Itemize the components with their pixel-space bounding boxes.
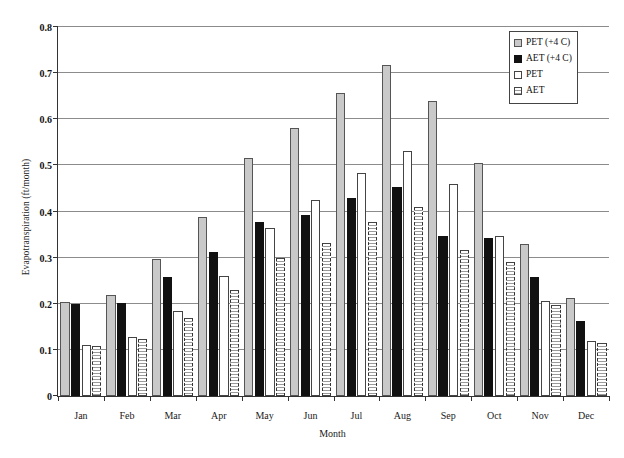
bar-jan-series2: [82, 345, 91, 396]
y-tick-label: 0.1: [40, 344, 53, 355]
bar-aug-series1: [392, 187, 401, 396]
bar-jun-series2: [311, 200, 320, 396]
x-tick-mark: [288, 396, 289, 401]
gridline: [58, 164, 609, 165]
bar-apr-series0: [198, 217, 207, 396]
bar-dec-series2: [587, 341, 596, 396]
x-label-may: May: [255, 410, 273, 421]
legend-swatch-icon: [514, 55, 522, 63]
bar-may-series0: [244, 158, 253, 396]
x-label-mar: Mar: [164, 410, 181, 421]
bar-feb-series1: [117, 303, 126, 396]
x-tick-mark: [471, 396, 472, 401]
bar-nov-series1: [530, 277, 539, 396]
gridline: [58, 211, 609, 212]
legend-item-pet[interactable]: PET: [514, 67, 572, 83]
bar-mar-series3: [184, 318, 193, 396]
bar-feb-series3: [138, 339, 147, 396]
x-label-sep: Sep: [441, 410, 456, 421]
y-tick-label: 0.3: [40, 252, 53, 263]
bar-aug-series3: [414, 207, 423, 396]
y-axis-title: Evapotranspiration (ft/month): [21, 112, 31, 322]
bar-sep-series1: [438, 236, 447, 397]
x-label-oct: Oct: [487, 410, 501, 421]
bar-jul-series2: [357, 173, 366, 396]
x-tick-mark: [379, 396, 380, 401]
bar-may-series1: [255, 222, 264, 396]
bar-nov-series3: [551, 305, 560, 396]
x-label-apr: Apr: [211, 410, 227, 421]
y-tick-mark: [53, 72, 58, 73]
y-tick-mark: [53, 257, 58, 258]
bar-aug-series0: [382, 65, 391, 396]
y-tick-label: 0: [47, 391, 52, 402]
x-tick-mark: [150, 396, 151, 401]
bar-nov-series2: [541, 301, 550, 396]
y-tick-label: 0.2: [40, 298, 53, 309]
bar-jan-series3: [92, 346, 101, 396]
y-tick-label: 0.7: [40, 68, 53, 79]
y-tick-mark: [53, 26, 58, 27]
bar-apr-series3: [230, 290, 239, 396]
legend-item-aet[interactable]: AET: [514, 83, 572, 99]
bar-apr-series1: [209, 252, 218, 396]
legend-label: PET: [526, 70, 543, 80]
bar-feb-series0: [106, 295, 115, 396]
x-tick-mark: [563, 396, 564, 401]
bar-may-series2: [265, 228, 274, 396]
bar-oct-series0: [474, 163, 483, 396]
bar-jun-series3: [322, 243, 331, 396]
gridline: [58, 118, 609, 119]
bar-dec-series0: [566, 298, 575, 396]
x-axis-title: Month: [57, 428, 608, 439]
bar-jun-series1: [301, 215, 310, 396]
x-label-feb: Feb: [119, 410, 134, 421]
legend-label: AET (+4 C): [526, 54, 572, 64]
x-label-jan: Jan: [74, 410, 87, 421]
bar-feb-series2: [128, 337, 137, 396]
bar-mar-series0: [152, 259, 161, 396]
y-tick-mark: [53, 211, 58, 212]
legend-item-pet-4-c[interactable]: PET (+4 C): [514, 35, 572, 51]
bar-jul-series3: [368, 222, 377, 396]
x-tick-mark: [58, 396, 59, 401]
bar-dec-series3: [597, 343, 606, 397]
y-tick-mark: [53, 349, 58, 350]
legend-label: AET: [526, 86, 544, 96]
bar-mar-series1: [163, 277, 172, 396]
x-label-jul: Jul: [351, 410, 363, 421]
bar-oct-series2: [495, 236, 504, 396]
legend-swatch-icon: [514, 71, 522, 79]
y-tick-label: 0.8: [40, 22, 53, 33]
x-tick-mark: [517, 396, 518, 401]
bar-aug-series2: [403, 151, 412, 396]
x-tick-mark: [425, 396, 426, 401]
bar-oct-series3: [506, 262, 515, 396]
chart-legend: PET (+4 C)AET (+4 C)PETAET: [509, 31, 578, 104]
bar-apr-series2: [219, 276, 228, 396]
x-tick-mark: [104, 396, 105, 401]
x-tick-mark: [334, 396, 335, 401]
bar-nov-series0: [520, 244, 529, 396]
legend-label: PET (+4 C): [526, 38, 570, 48]
legend-item-aet-4-c[interactable]: AET (+4 C): [514, 51, 572, 67]
y-tick-label: 0.4: [40, 206, 53, 217]
x-tick-mark: [609, 396, 610, 401]
bar-dec-series1: [576, 321, 585, 396]
gridline: [58, 26, 609, 27]
bar-jun-series0: [290, 128, 299, 396]
legend-swatch-icon: [514, 39, 522, 47]
bar-jul-series1: [347, 198, 356, 396]
bar-oct-series1: [484, 238, 493, 396]
bar-jan-series0: [60, 302, 69, 396]
x-label-nov: Nov: [532, 410, 549, 421]
legend-swatch-icon: [514, 87, 522, 95]
x-tick-mark: [196, 396, 197, 401]
bar-may-series3: [276, 258, 285, 396]
y-tick-mark: [53, 303, 58, 304]
x-label-dec: Dec: [578, 410, 594, 421]
y-tick-label: 0.5: [40, 160, 53, 171]
bar-jan-series1: [71, 304, 80, 396]
bar-jul-series0: [336, 93, 345, 396]
bar-sep-series0: [428, 101, 437, 396]
